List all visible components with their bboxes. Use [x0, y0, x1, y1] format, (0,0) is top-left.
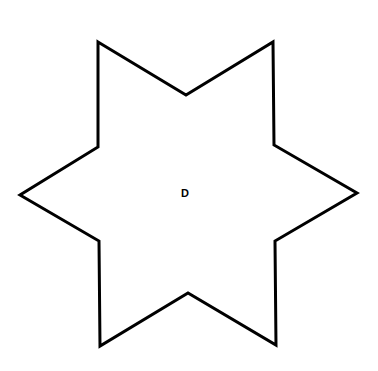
center-label: D [181, 187, 189, 199]
star-diagram: D [0, 0, 378, 371]
